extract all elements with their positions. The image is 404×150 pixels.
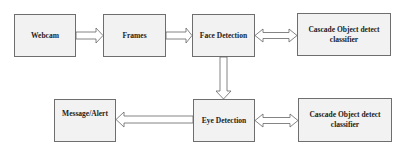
arrows-layer — [0, 0, 404, 150]
arrow-right-icon — [166, 28, 192, 43]
arrow-bidirectional-icon — [255, 29, 297, 42]
arrow-bidirectional-icon — [255, 114, 298, 127]
arrow-down-icon — [216, 57, 231, 99]
arrow-left-icon — [116, 112, 193, 127]
arrow-right-icon — [76, 28, 103, 43]
